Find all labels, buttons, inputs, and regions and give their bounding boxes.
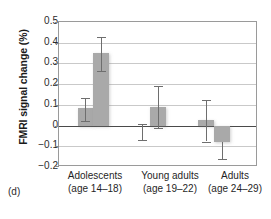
- error-line-adolescents-1: [85, 98, 86, 121]
- error-cap-bottom-adults-1: [202, 142, 211, 143]
- x-group-label-adolescents: Adolescents (age 14–18): [56, 170, 134, 195]
- gridline-0.3: [59, 63, 256, 64]
- error-cap-top-adults-1: [202, 100, 211, 101]
- x-group-line2: (age 19–22): [130, 183, 210, 196]
- error-line-adults-1: [206, 100, 207, 141]
- error-line-adults-2: [222, 142, 223, 160]
- y-tick-label-3: 0.2: [28, 78, 58, 88]
- error-line-young-adults-1: [142, 124, 143, 140]
- y-tick-label-0: 0.5: [28, 16, 58, 26]
- error-line-young-adults-2: [158, 86, 159, 128]
- y-tick-mark-0.5: [55, 22, 59, 23]
- panel-label: (d): [8, 186, 20, 197]
- x-group-line1: Adolescents: [68, 170, 122, 181]
- y-tick-label-7: −0.2: [28, 161, 58, 171]
- error-cap-bottom-adults-2: [218, 159, 227, 160]
- y-tick-label-6: −0.1: [28, 140, 58, 150]
- y-tick-label-5: 0: [28, 120, 58, 130]
- y-tick-mark-0.4: [55, 43, 59, 44]
- gridline-0.4: [59, 43, 256, 44]
- y-tick-mark-0.3: [55, 63, 59, 64]
- error-cap-top-young-adults-2: [154, 86, 163, 87]
- error-cap-bottom-young-adults-2: [154, 128, 163, 129]
- y-tick-label-4: 0.1: [28, 99, 58, 109]
- y-tick-label-2: 0.3: [28, 57, 58, 67]
- error-cap-bottom-adolescents-1: [81, 121, 90, 122]
- x-group-line1: Adults: [221, 170, 249, 181]
- gridline-0.2: [59, 84, 256, 85]
- error-cap-top-young-adults-1: [138, 124, 147, 125]
- figure-panel: FMRI signal change (%) 0.5 0.4 0.3 0.2 0…: [0, 0, 271, 219]
- y-tick-mark--0.1: [55, 146, 59, 147]
- plot-area: [58, 21, 257, 166]
- gridline--0.1: [59, 146, 256, 147]
- error-cap-bottom-young-adults-1: [138, 140, 147, 141]
- y-tick-label-1: 0.4: [28, 37, 58, 47]
- x-group-label-young-adults: Young adults (age 19–22): [130, 170, 210, 195]
- bar-adults-2: [214, 126, 230, 142]
- y-tick-mark-0.2: [55, 84, 59, 85]
- error-cap-bottom-adolescents-2: [97, 71, 106, 72]
- x-group-line1: Young adults: [141, 170, 198, 181]
- error-line-adolescents-2: [101, 37, 102, 71]
- x-group-line2: (age 14–18): [56, 183, 134, 196]
- y-tick-mark--0.2: [55, 166, 59, 167]
- error-cap-top-adolescents-1: [81, 98, 90, 99]
- error-cap-top-adolescents-2: [97, 37, 106, 38]
- x-group-line2: (age 24–29): [200, 183, 270, 196]
- y-tick-mark-0.1: [55, 105, 59, 106]
- x-group-label-adults: Adults (age 24–29): [200, 170, 270, 195]
- y-tick-mark-0: [55, 126, 59, 127]
